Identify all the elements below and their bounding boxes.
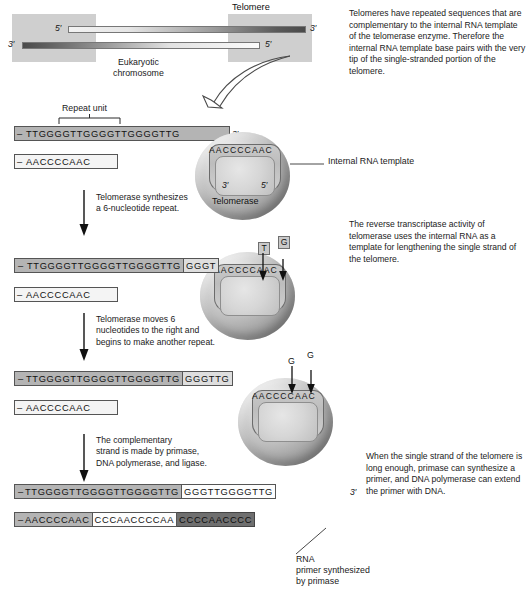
stage-4-bottom-strand: – AACCCCAAC CCCAACCCCAA CCCCAACCCC bbox=[14, 512, 344, 527]
step-arrow-1 bbox=[78, 190, 92, 238]
internal-rna-pointer bbox=[290, 162, 326, 166]
stage-1-bottom-dash: – bbox=[17, 157, 23, 167]
incoming-nucleotide-arrows-2 bbox=[255, 253, 295, 285]
stage-4-bottom-seq-2: CCCAACCCCAA bbox=[95, 515, 175, 525]
rna-primer-label: RNA primer synthesized by primase bbox=[296, 554, 370, 588]
side-text-1: Telomeres have repeated sequences that a… bbox=[349, 8, 527, 78]
eukaryotic-chromosome-label: Eukaryotic chromosome bbox=[113, 57, 164, 79]
stage-2-top-seq-2: GGGT bbox=[186, 261, 216, 271]
stage-3-bottom-seq: AACCCCAAC bbox=[26, 403, 91, 413]
stage-4-top-seq-1: TTGGGGTTGGGGTTGGGGTTG bbox=[25, 487, 179, 497]
step-text-3: The complementary strand is made by prim… bbox=[96, 435, 207, 469]
bottom-strand-5prime-label: 5′ bbox=[265, 39, 271, 49]
stage-4-top-dash: – bbox=[18, 487, 24, 497]
stage-1-top-seq: TTGGGGTTGGGGTTGGGGTTG bbox=[26, 129, 180, 139]
incoming-nucleotide-arrows-3 bbox=[286, 366, 326, 398]
repeat-unit-bracket bbox=[58, 114, 128, 126]
telomerase-label: Telomerase bbox=[212, 196, 259, 206]
stage-2-top-strand: – TTGGGGTTGGGGTTGGGGTTG GGGT bbox=[14, 258, 276, 273]
top-strand-3prime-label: 3′ bbox=[310, 23, 316, 33]
step-arrow-3 bbox=[78, 434, 92, 482]
stage-1-bottom-strand: – AACCCCAAC bbox=[14, 154, 118, 169]
stage-3-bottom-strand: – AACCCCAAC bbox=[14, 400, 118, 415]
stage-1-top-dash: – bbox=[17, 129, 23, 139]
telomere-label: Telomere bbox=[232, 2, 270, 12]
stage-4-bottom-seq-1: AACCCCAAC bbox=[25, 515, 90, 525]
bottom-strand-3prime-label: 3′ bbox=[8, 39, 14, 49]
stage-1-bottom-seq: AACCCCAAC bbox=[26, 157, 91, 167]
stage-4: – TTGGGGTTGGGGTTGGGGTTG GGGTTGGGGTTG 3′ … bbox=[0, 484, 400, 591]
stage-3-top-strand: – TTGGGGTTGGGGTTGGGGTTG GGGTTG bbox=[14, 371, 297, 386]
stage-2-bottom-dash: – bbox=[17, 290, 23, 300]
incoming-nucleotide-g1: G bbox=[288, 356, 295, 366]
chromosome-bottom-strand bbox=[22, 42, 260, 49]
stage-4-top-seq-2: GGGTTGGGGTTG bbox=[184, 487, 273, 497]
incoming-nucleotide-g2: G bbox=[307, 350, 314, 360]
chromosome-top-strand bbox=[68, 26, 306, 33]
stage-3-top-dash: – bbox=[18, 374, 24, 384]
stage-4-top-strand: – TTGGGGTTGGGGTTGGGGTTG GGGTTGGGGTTG bbox=[14, 484, 344, 499]
stage-1: Repeat unit – TTGGGGTTGGGGTTGGGGTTG 3′ –… bbox=[0, 100, 340, 200]
stage-2-bottom-strand: – AACCCCAAC bbox=[14, 287, 118, 302]
stage-1-rna-5prime: 5′ bbox=[261, 180, 267, 190]
stage-2-top-dash: – bbox=[18, 261, 24, 271]
stage-1-rna-3prime: 3′ bbox=[222, 180, 228, 190]
top-strand-5prime-label: 5′ bbox=[55, 23, 61, 33]
stage-4-bottom-dash: – bbox=[18, 515, 24, 525]
stage-3-top-seq-1: TTGGGGTTGGGGTTGGGGTTG bbox=[26, 374, 180, 384]
stage-4-bottom-seq-3-rna-primer: CCCCAACCCC bbox=[179, 515, 252, 525]
internal-rna-template-label: Internal RNA template bbox=[328, 156, 414, 167]
incoming-nucleotide-g: G bbox=[278, 236, 290, 249]
stage-1-top-strand: – TTGGGGTTGGGGTTGGGGTTG bbox=[14, 126, 230, 141]
step-text-2: Telomerase moves 6 nucleotides to the ri… bbox=[96, 314, 215, 348]
stage-2-top-seq-1: TTGGGGTTGGGGTTGGGGTTG bbox=[27, 261, 181, 271]
step-arrow-2 bbox=[78, 313, 92, 361]
stage-3-bottom-dash: – bbox=[17, 403, 23, 413]
chromosome-left-shade bbox=[12, 14, 96, 62]
stage-2-bottom-seq: AACCCCAAC bbox=[26, 290, 91, 300]
chromosome-diagram: Telomere 5′ 3′ 3′ 5′ Eukaryotic chromoso… bbox=[0, 0, 340, 95]
side-text-2: The reverse transcriptase activity of te… bbox=[349, 219, 527, 265]
stage-1-rna-template-letters: AACCCCAAC bbox=[209, 145, 273, 155]
step-text-1: Telomerase synthesizes a 6-nucleotide re… bbox=[96, 192, 188, 215]
repeat-unit-label: Repeat unit bbox=[62, 103, 107, 114]
stage-4-top-3prime: 3′ bbox=[350, 487, 356, 497]
stage-3-top-seq-2: GGGTTG bbox=[185, 374, 229, 384]
